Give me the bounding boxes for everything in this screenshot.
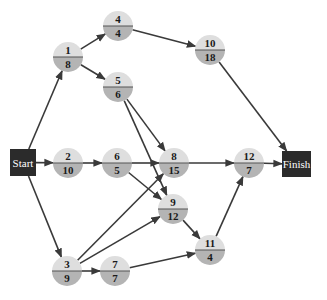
activity-node-11: 114 [195,235,225,265]
activity-number: 9 [170,196,176,208]
nodes-layer: 1821039445665778159121018114127 [52,11,264,286]
activity-duration: 7 [112,272,118,284]
activity-duration: 7 [246,164,252,176]
activity-number: 5 [115,74,121,86]
edge-11-to-12 [216,177,243,237]
activity-number: 6 [114,150,120,162]
edge-6-to-9 [129,173,162,200]
activity-duration: 8 [65,58,71,70]
activity-duration: 18 [205,51,217,63]
activity-duration: 6 [115,88,121,100]
finish-label: Finish [283,158,311,170]
activity-node-1: 18 [53,42,83,72]
edge-1-to-4 [81,34,106,49]
activity-node-5: 56 [103,72,133,102]
activity-node-4: 44 [103,11,133,41]
activity-number: 8 [171,150,177,162]
activity-duration: 4 [207,251,213,263]
activity-duration: 9 [64,272,70,284]
edge-start-to-3 [29,176,62,257]
network-diagram: 1821039445665778159121018114127 StartFin… [0,0,327,300]
edge-3-to-8 [78,174,164,261]
activity-node-6: 65 [102,148,132,178]
edge-7-to-11 [130,253,196,268]
activity-number: 10 [205,37,217,49]
edge-4-to-10 [133,30,196,46]
edge-start-to-1 [29,71,62,149]
finish-box: Finish [282,151,311,177]
start-box: Start [10,149,36,176]
activity-duration: 4 [115,27,121,39]
activity-duration: 10 [63,164,75,176]
activity-number: 3 [64,258,70,270]
edge-3-to-9 [80,217,160,264]
edge-5-to-9 [124,101,167,196]
activity-duration: 15 [169,164,181,176]
activity-node-3: 39 [52,256,82,286]
activity-node-12: 127 [234,148,264,178]
activity-number: 1 [65,44,71,56]
start-label: Start [13,157,34,169]
activity-duration: 12 [168,210,180,222]
activity-node-9: 912 [158,194,188,224]
edge-1-to-5 [81,65,105,80]
edge-9-to-11 [183,220,200,239]
activity-number: 2 [65,150,71,162]
activity-node-2: 210 [53,148,83,178]
activity-number: 12 [244,150,256,162]
activity-number: 4 [115,13,121,25]
activity-duration: 5 [114,164,120,176]
activity-node-7: 77 [100,256,130,286]
activity-node-8: 815 [159,148,189,178]
activity-node-10: 1018 [195,35,225,65]
activity-number: 7 [112,258,118,270]
activity-number: 11 [205,237,215,249]
edge-5-to-8 [127,99,165,151]
edge-10-to-finish [219,62,287,151]
